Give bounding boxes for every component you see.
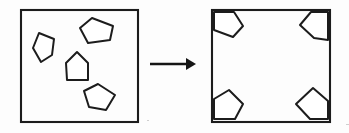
scan-speck [147,120,149,121]
figure-root [0,0,349,133]
figure-background [0,0,349,133]
figure-canvas [0,0,349,133]
